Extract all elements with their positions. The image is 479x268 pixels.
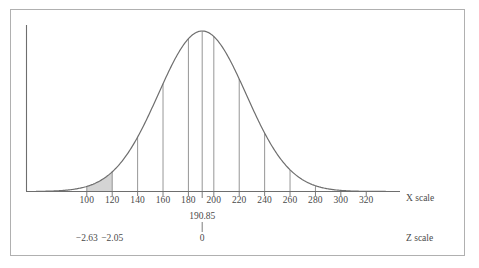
z-label-minus-2-05: −2.05	[101, 233, 123, 243]
x-tick-label-280: 280	[308, 195, 323, 205]
figure-border	[10, 9, 465, 256]
x-tick-label-240: 240	[257, 195, 272, 205]
mean-x-value-label: 190.85	[189, 211, 215, 221]
x-tick-label-320: 320	[359, 195, 374, 205]
x-scale-axis-label: X scale	[406, 193, 434, 203]
z-scale-axis-label: Z scale	[406, 233, 433, 243]
x-tick-label-300: 300	[334, 195, 349, 205]
x-tick-label-220: 220	[232, 195, 247, 205]
x-tick-label-160: 160	[156, 195, 171, 205]
x-tick-label-200: 200	[207, 195, 222, 205]
x-tick-label-120: 120	[105, 195, 120, 205]
z-label-minus-2-63: −2.63	[76, 233, 98, 243]
x-tick-label-180: 180	[181, 195, 196, 205]
figure-root: 100120140160180200220240260280300320 190…	[0, 0, 479, 268]
x-tick-label-140: 140	[130, 195, 145, 205]
mean-z-value-label: 0	[200, 233, 205, 243]
x-tick-label-260: 260	[283, 195, 298, 205]
x-tick-label-100: 100	[80, 195, 95, 205]
